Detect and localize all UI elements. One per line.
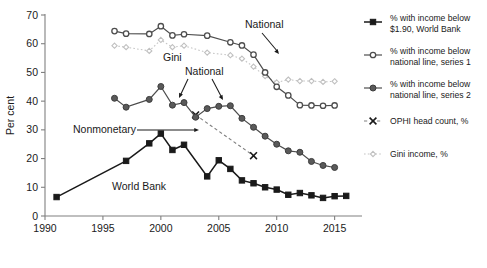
gini-marker — [297, 78, 302, 83]
gini-marker — [228, 53, 233, 58]
annotation-national_top: National — [245, 18, 284, 30]
x-tick-label: 1995 — [91, 222, 115, 234]
world_bank-marker — [170, 147, 175, 152]
gini-marker — [112, 43, 117, 48]
national_2-marker — [320, 162, 326, 168]
national_2-marker — [297, 149, 303, 155]
national_2-marker — [169, 102, 175, 108]
annotation-nonmonetary: Nonmonetary — [73, 123, 137, 135]
national_2-marker — [181, 100, 187, 106]
national_2-marker — [239, 115, 245, 121]
legend-label-national_1: % with income below — [390, 46, 471, 56]
x-tick-label: 2005 — [207, 222, 231, 234]
gini-marker — [320, 79, 325, 84]
national_2-marker — [285, 148, 291, 154]
national_2-marker — [204, 106, 210, 112]
legend-item-national_2[interactable]: % with income belownational line, series… — [364, 79, 471, 100]
gini-marker — [370, 151, 375, 156]
ophi-marker — [250, 152, 257, 159]
world_bank-marker — [286, 192, 291, 197]
x-tick-label: 2015 — [323, 222, 347, 234]
national_1-marker — [228, 40, 233, 45]
national_1-marker — [370, 52, 375, 57]
world_bank-marker — [239, 178, 244, 183]
national_2-marker — [158, 83, 164, 89]
annotation-national_mid: National — [185, 65, 224, 77]
national_1-marker — [112, 28, 117, 33]
world_bank-marker — [251, 181, 256, 186]
world_bank-marker — [274, 187, 279, 192]
national_1-marker — [332, 103, 337, 108]
world_bank-marker — [147, 141, 152, 146]
legend-item-gini[interactable]: Gini income, % — [364, 149, 448, 159]
data-series — [54, 23, 349, 200]
gini-marker — [286, 77, 291, 82]
national_2-marker — [308, 158, 314, 164]
world_bank-marker — [262, 185, 267, 190]
legend-label-national_2: % with income below — [390, 79, 471, 89]
y-axis-label: Per cent — [4, 96, 16, 135]
national_2-marker — [193, 114, 199, 120]
world_bank-marker — [54, 194, 59, 199]
national_2-marker — [112, 95, 118, 101]
world_bank-marker — [181, 142, 186, 147]
y-tick-label: 20 — [26, 152, 38, 164]
national_2-marker — [123, 104, 129, 110]
chart-annotations: NationalGiniNationalNonmonetaryWorld Ban… — [73, 18, 284, 192]
gini-marker — [239, 56, 244, 61]
gini-marker — [181, 43, 186, 48]
national_1-marker — [170, 33, 175, 38]
chart-figure: 010203040506070199019952000200520102015P… — [0, 0, 487, 268]
series-world_bank — [54, 131, 349, 201]
national_2-marker — [274, 141, 280, 147]
world_bank-marker — [297, 190, 302, 195]
legend-label-world_bank: % with income below — [390, 13, 471, 23]
legend-item-world_bank[interactable]: % with income below$1.90, World Bank — [364, 13, 471, 34]
chart-legend: % with income below$1.90, World Bank% wi… — [364, 13, 471, 159]
world_bank-marker — [228, 166, 233, 171]
series-gini — [112, 37, 337, 85]
y-tick-label: 60 — [26, 37, 38, 49]
national_2-marker — [332, 164, 338, 170]
legend-label2-national_1: national line, series 1 — [390, 57, 471, 67]
annotation-gini_inline: Gini — [163, 51, 182, 63]
world_bank-marker — [332, 193, 337, 198]
y-tick-label: 10 — [26, 181, 38, 193]
legend-item-national_1[interactable]: % with income belownational line, series… — [364, 46, 471, 67]
x-tick-label: 1990 — [33, 222, 57, 234]
national_2-marker — [146, 96, 152, 102]
national_1-marker — [123, 31, 128, 36]
world_bank-marker — [123, 158, 128, 163]
y-tick-label: 70 — [26, 9, 38, 21]
gini-marker — [147, 48, 152, 53]
national_1-marker — [204, 33, 209, 38]
annotation-arrowhead — [194, 128, 199, 132]
series-ophi — [192, 112, 257, 160]
world_bank-marker — [309, 193, 314, 198]
national_2-marker — [227, 103, 233, 109]
gini-marker — [332, 79, 337, 84]
gini-marker — [123, 45, 128, 50]
national_1-marker — [286, 93, 291, 98]
series-line-gini — [115, 40, 335, 82]
chart-canvas: 010203040506070199019952000200520102015P… — [0, 0, 487, 268]
series-line-world_bank — [57, 134, 347, 198]
y-tick-label: 30 — [26, 123, 38, 135]
legend-label-ophi: OPHI head count, % — [390, 116, 469, 126]
national_2-marker — [370, 85, 376, 91]
y-tick-label: 0 — [32, 210, 38, 222]
x-tick-label: 2010 — [265, 222, 289, 234]
gini-marker — [158, 37, 163, 42]
legend-label-gini: Gini income, % — [390, 149, 448, 159]
legend-item-ophi[interactable]: OPHI head count, % — [364, 116, 469, 126]
y-tick-label: 50 — [26, 66, 38, 78]
annotation-world_bank_inline: World Bank — [112, 180, 167, 192]
series-national_1 — [112, 23, 338, 108]
gini-marker — [309, 78, 314, 83]
national_1-marker — [320, 103, 325, 108]
national_1-marker — [274, 84, 279, 89]
national_2-marker — [262, 133, 268, 139]
world_bank-marker — [320, 195, 325, 200]
legend-label2-national_2: national line, series 2 — [390, 90, 471, 100]
annotation-arrow — [180, 79, 188, 96]
